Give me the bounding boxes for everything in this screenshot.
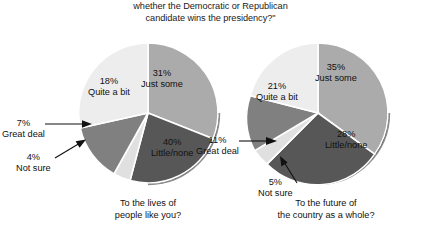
right-label-little-none: 28% Little/none [325,129,367,151]
left-pie [45,43,220,185]
left-caption-line-1: To the lives of [98,198,198,210]
right-label-quite-a-bit: 21% Quite a bit [256,81,298,103]
right-pie-caption: To the future of the country as a whole? [266,198,386,221]
right-just-some-name: Just some [315,73,357,84]
right-little-none-pct: 28% [325,129,367,140]
left-label-little-none: 40% Little/none [151,137,193,159]
right-great-deal-name: Great deal [196,146,239,157]
right-just-some-pct: 35% [315,62,357,73]
left-label-just-some: 31% Just some [141,68,183,90]
right-quite-a-bit-name: Quite a bit [256,92,298,103]
left-not-sure-name: Not sure [16,163,51,174]
right-caption-line-2: the country as a whole? [266,210,386,222]
left-pie-caption: To the lives of people like you? [98,198,198,221]
right-great-deal-pct: 11% [196,135,239,146]
left-label-quite-a-bit: 18% Quite a bit [88,76,130,98]
left-just-some-pct: 31% [141,68,183,79]
left-quite-a-bit-pct: 18% [88,76,130,87]
right-label-not-sure: 5% Not sure [258,177,293,199]
left-callout-not-sure [55,140,86,158]
left-little-none-pct: 40% [151,137,193,148]
right-quite-a-bit-pct: 21% [256,81,298,92]
left-great-deal-pct: 7% [2,118,45,129]
right-not-sure-pct: 5% [258,177,293,188]
right-label-great-deal: 11% Great deal [196,135,239,157]
left-great-deal-name: Great deal [2,129,45,140]
pie-chart-figure: whether the Democratic or Republican can… [0,0,421,234]
left-not-sure-pct: 4% [16,152,51,163]
right-label-just-some: 35% Just some [315,62,357,84]
left-label-not-sure: 4% Not sure [16,152,51,174]
right-caption-line-1: To the future of [266,198,386,210]
left-quite-a-bit-name: Quite a bit [88,87,130,98]
right-little-none-name: Little/none [325,140,367,151]
left-little-none-name: Little/none [151,148,193,159]
left-callout-great-deal [45,120,92,127]
left-caption-line-2: people like you? [98,210,198,222]
left-just-some-name: Just some [141,79,183,90]
left-label-great-deal: 7% Great deal [2,118,45,140]
